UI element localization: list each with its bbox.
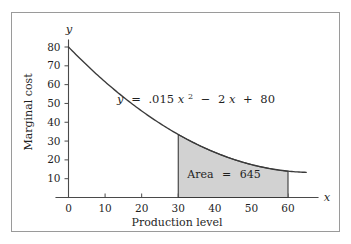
x-tick-label: 0 xyxy=(65,202,72,214)
x-tick-label: 10 xyxy=(98,202,111,214)
x-tick-label: 60 xyxy=(281,202,294,214)
y-axis-symbol: y xyxy=(65,22,73,36)
equation-plus: + xyxy=(243,92,253,106)
y-axis-label: Marginal cost xyxy=(22,73,35,151)
x-tick-label: 30 xyxy=(172,202,185,214)
equation-lhs: y xyxy=(116,92,124,106)
x-axis-symbol: x xyxy=(324,190,331,204)
y-tick-label: 20 xyxy=(47,153,60,165)
x-tick-label: 40 xyxy=(208,202,221,214)
y-tick-label: 30 xyxy=(47,135,60,147)
area-label-text: Area xyxy=(186,168,214,181)
y-tick-label: 60 xyxy=(47,78,60,90)
y-tick-label: 40 xyxy=(47,116,60,128)
equation-minus: − xyxy=(201,92,211,106)
equation-var-linear: x xyxy=(229,92,236,106)
area-label-equals: = xyxy=(222,168,231,181)
equation-equals: = xyxy=(131,92,141,106)
equation-exponent: 2 xyxy=(188,92,193,101)
area-label-value: 645 xyxy=(240,168,261,181)
x-tick-label: 20 xyxy=(135,202,148,214)
y-tick-label: 80 xyxy=(47,41,60,53)
x-tick-label: 50 xyxy=(245,202,258,214)
area-label: Area = 645 xyxy=(186,168,261,181)
y-tick-label: 10 xyxy=(47,172,60,184)
equation-coef-quadratic: .015 xyxy=(148,92,174,106)
equation-var-quadratic: x xyxy=(178,92,185,106)
x-axis-label: Production level xyxy=(132,216,223,229)
equation-constant: 80 xyxy=(260,92,275,106)
equation-coef-linear: 2 xyxy=(218,92,225,106)
figure-canvas: 1020304050607080 0102030405060 y x Produ… xyxy=(0,0,351,244)
y-tick-label: 50 xyxy=(47,97,60,109)
y-tick-label: 70 xyxy=(47,59,60,71)
